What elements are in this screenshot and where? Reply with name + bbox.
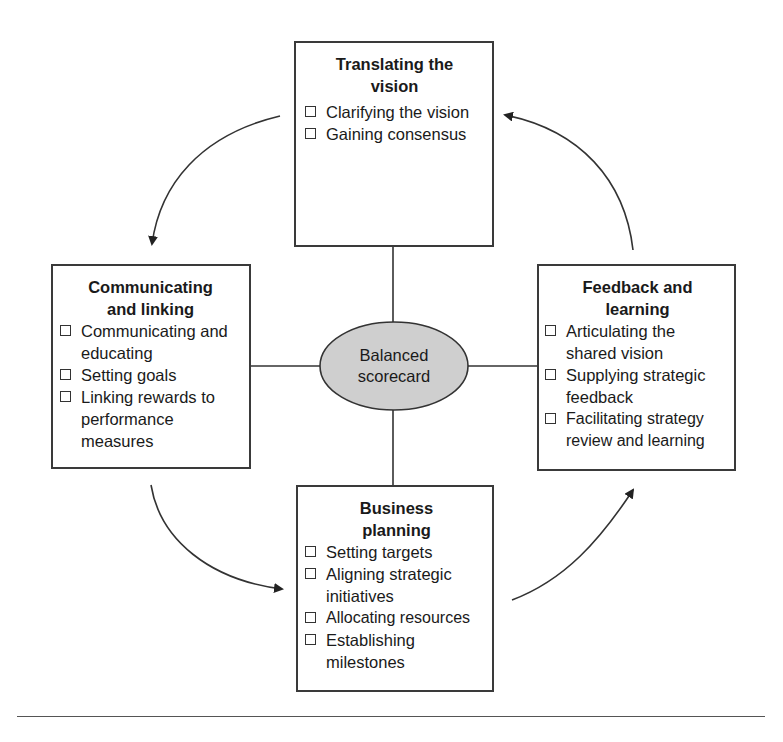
arrow-left-to-bottom [151,485,282,589]
checkbox-icon [305,106,316,117]
checkbox-icon [60,391,71,402]
box-title: Translating the vision [305,53,484,97]
list-item: Gaining consensus [305,123,484,145]
list-item: Aligning strategic initiatives [305,563,488,607]
box-item-list: Clarifying the vision Gaining consensus [305,101,484,145]
arrow-right-to-top [505,115,633,250]
list-item: Linking rewards to performance measures [60,386,241,452]
box-communicating-and-linking: Communicating and linking Communicating … [51,264,251,469]
checkbox-icon [305,634,316,645]
bottom-divider [17,716,765,717]
list-item: Communicating and educating [60,320,241,364]
hub-label: Balanced scorecard [320,321,468,411]
checkbox-icon [305,612,316,623]
checkbox-icon [305,568,316,579]
list-item: Setting goals [60,364,241,386]
list-item: Facilitating strategy review and learnin… [545,408,730,452]
box-feedback-and-learning: Feedback and learning Articulating the s… [537,264,736,471]
list-item: Establishing milestones [305,629,488,673]
checkbox-icon [60,325,71,336]
arrow-top-to-left [152,116,280,244]
checkbox-icon [545,325,556,336]
box-title: Business planning [305,497,488,541]
list-item: Clarifying the vision [305,101,484,123]
list-item: Supplying strategic feedback [545,364,730,408]
checkbox-icon [60,369,71,380]
hub-label-line1: Balanced [358,345,430,366]
box-item-list: Setting targets Aligning strategic initi… [305,541,488,673]
checkbox-icon [305,546,316,557]
checkbox-icon [545,413,556,424]
checkbox-icon [305,128,316,139]
box-translating-the-vision: Translating the vision Clarifying the vi… [294,41,494,247]
checkbox-icon [545,369,556,380]
arrow-bottom-to-right [512,490,633,600]
hub-label-line2: scorecard [358,366,430,387]
list-item: Articulating the shared vision [545,320,730,364]
list-item: Allocating resources [305,607,488,629]
box-title: Communicating and linking [60,276,241,320]
box-title: Feedback and learning [545,276,730,320]
box-business-planning: Business planning Setting targets Aligni… [296,485,494,692]
list-item: Setting targets [305,541,488,563]
box-item-list: Communicating and educating Setting goal… [60,320,241,452]
box-item-list: Articulating the shared vision Supplying… [545,320,730,452]
